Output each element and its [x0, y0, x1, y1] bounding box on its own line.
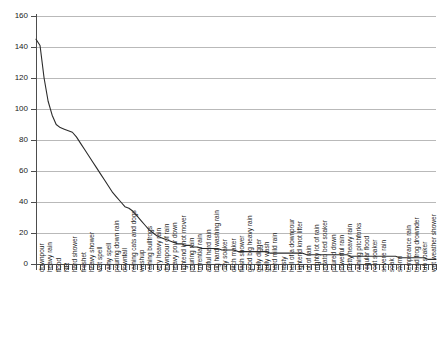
series-path	[36, 39, 436, 259]
chart-container: 020406080100120140160 downpourheavy rain…	[0, 0, 441, 346]
line-series	[0, 0, 441, 346]
